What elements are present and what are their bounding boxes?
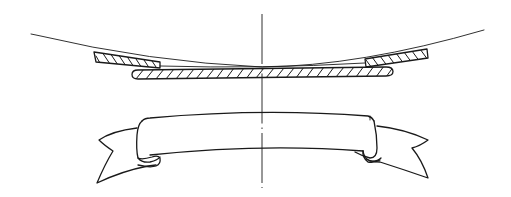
ribbon-banner bbox=[97, 112, 428, 183]
center-hatched-strip bbox=[132, 63, 394, 79]
left-hatched-block bbox=[94, 52, 160, 70]
drawing-canvas bbox=[0, 0, 511, 197]
cross-section-drawing bbox=[0, 0, 511, 197]
